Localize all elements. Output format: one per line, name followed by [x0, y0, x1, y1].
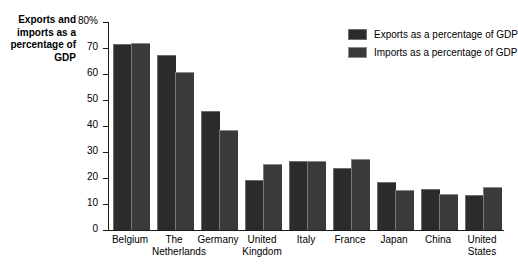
- bar-imports: [175, 72, 194, 230]
- y-axis-tick: 50: [44, 100, 108, 101]
- bar-imports: [395, 190, 414, 230]
- y-axis-tick-mark: [103, 22, 108, 23]
- bar-exports: [289, 161, 308, 230]
- y-axis-tick-label: 30: [87, 145, 98, 156]
- y-axis-tick: 80%: [44, 22, 108, 23]
- x-axis-category-label: UnitedStates: [460, 234, 504, 258]
- bar-group: [201, 22, 237, 230]
- legend-item-imports: Imports as a percentage of GDP: [348, 45, 518, 60]
- y-axis-tick-mark: [103, 152, 108, 153]
- bar-group: [113, 22, 149, 230]
- x-axis-line: [108, 230, 504, 231]
- y-axis-tick-label: 80%: [78, 15, 98, 26]
- x-axis-category-label: Belgium: [108, 234, 152, 246]
- bar-imports: [483, 187, 502, 230]
- bar-imports: [263, 164, 282, 230]
- y-axis-tick-label: 70: [87, 41, 98, 52]
- bar-exports: [333, 168, 352, 230]
- legend-swatch-imports-icon: [348, 47, 367, 58]
- bar-imports: [351, 159, 370, 230]
- bar-group: [157, 22, 193, 230]
- x-axis-category-label: Germany: [196, 234, 240, 246]
- legend-label-imports: Imports as a percentage of GDP: [374, 47, 517, 58]
- bar-exports: [245, 180, 264, 230]
- y-axis-tick: 30: [44, 152, 108, 153]
- bar-exports: [421, 189, 440, 230]
- bar-imports: [131, 43, 150, 230]
- y-axis-tick: 60: [44, 74, 108, 75]
- bar-exports: [113, 44, 132, 230]
- y-axis-tick-label: 50: [87, 93, 98, 104]
- x-axis-category-label: China: [416, 234, 460, 246]
- legend-label-exports: Exports as a percentage of GDP: [374, 29, 518, 40]
- x-axis-category-label: UnitedKingdom: [240, 234, 284, 258]
- y-axis-tick-label: 60: [87, 67, 98, 78]
- y-axis-tick-label: 10: [87, 197, 98, 208]
- y-axis-tick: 40: [44, 126, 108, 127]
- x-axis-category-label: France: [328, 234, 372, 246]
- y-axis-tick-label: 40: [87, 119, 98, 130]
- y-axis-tick: 70: [44, 48, 108, 49]
- bar-exports: [201, 111, 220, 230]
- y-axis-tick-label: 20: [87, 171, 98, 182]
- y-axis-tick-label: 0: [92, 223, 98, 234]
- y-axis-tick-mark: [103, 100, 108, 101]
- bar-imports: [439, 194, 458, 230]
- bar-exports: [377, 182, 396, 230]
- x-axis-category-label: Japan: [372, 234, 416, 246]
- y-axis-tick: 10: [44, 204, 108, 205]
- y-axis-tick: 0: [44, 230, 108, 231]
- bar-exports: [157, 55, 176, 230]
- legend-item-exports: Exports as a percentage of GDP: [348, 27, 518, 42]
- x-axis-category-label: Italy: [284, 234, 328, 246]
- y-axis-tick: 20: [44, 178, 108, 179]
- y-axis-tick-mark: [103, 126, 108, 127]
- x-axis-category-label: TheNetherlands: [152, 234, 196, 258]
- bar-group: [245, 22, 281, 230]
- y-axis-tick-mark: [103, 48, 108, 49]
- y-axis-tick-mark: [103, 230, 108, 231]
- y-axis-tick-mark: [103, 178, 108, 179]
- bar-imports: [307, 161, 326, 230]
- bar-imports: [219, 130, 238, 230]
- y-axis-tick-mark: [103, 204, 108, 205]
- bar-group: [289, 22, 325, 230]
- chart-legend: Exports as a percentage of GDP Imports a…: [348, 27, 518, 63]
- x-axis-category-labels: BelgiumTheNetherlandsGermanyUnitedKingdo…: [108, 234, 504, 264]
- bar-exports: [465, 195, 484, 230]
- legend-swatch-exports-icon: [348, 29, 367, 40]
- y-axis-tick-mark: [103, 74, 108, 75]
